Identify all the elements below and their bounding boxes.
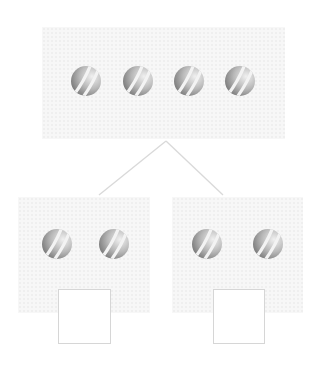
ball-icon [42, 229, 72, 259]
bond-connector-lines [0, 0, 315, 372]
answer-box-left[interactable] [58, 289, 111, 344]
ball-icon [253, 229, 283, 259]
answer-box-right[interactable] [213, 289, 265, 344]
ball-icon [99, 229, 129, 259]
ball-icon [192, 229, 222, 259]
